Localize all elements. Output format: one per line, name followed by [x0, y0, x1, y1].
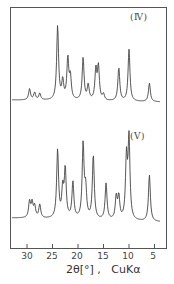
- x-axis-label: 2θ[°] , CuKα: [66, 263, 140, 276]
- tick-label-10: 10: [122, 251, 133, 261]
- trace-v-line: [12, 131, 160, 222]
- xrd-chart: [0, 0, 174, 284]
- trace-iv-label: (Ⅳ): [130, 12, 148, 22]
- trace-iv-line: [12, 26, 160, 102]
- tick-label-25: 25: [46, 251, 57, 261]
- tick-label-20: 20: [71, 251, 82, 261]
- tick-label-30: 30: [21, 251, 32, 261]
- tick-label-15: 15: [97, 251, 108, 261]
- trace-v-label: (Ⅴ): [130, 131, 145, 141]
- plot-frame: [11, 8, 167, 249]
- x-axis-ticks: [27, 244, 155, 248]
- tick-label-5: 5: [150, 251, 156, 261]
